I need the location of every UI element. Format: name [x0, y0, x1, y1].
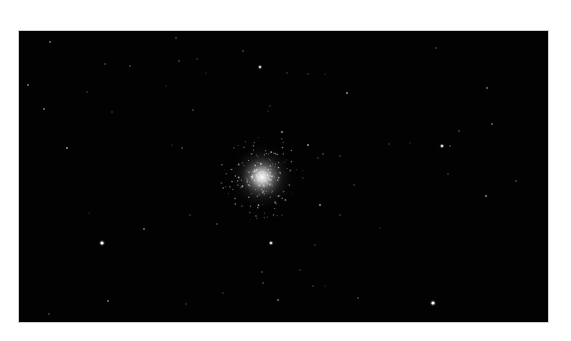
star — [307, 144, 309, 146]
night-sky-image — [19, 31, 548, 322]
star — [286, 72, 287, 73]
star — [192, 109, 194, 111]
star — [515, 180, 517, 182]
star — [431, 301, 434, 304]
star — [88, 212, 89, 213]
star — [409, 142, 410, 143]
star — [353, 184, 354, 185]
cluster-core — [220, 137, 303, 220]
star — [357, 297, 359, 299]
star — [43, 108, 45, 110]
star — [129, 65, 131, 67]
star — [189, 214, 190, 215]
star — [270, 242, 273, 245]
star — [299, 269, 300, 270]
star — [196, 58, 197, 59]
star — [277, 299, 279, 301]
star — [48, 313, 50, 315]
star — [185, 303, 186, 304]
star — [66, 147, 68, 149]
star — [165, 85, 166, 86]
star — [447, 173, 448, 174]
star-cluster-photo: globular star cluster — [19, 31, 548, 322]
star — [242, 50, 244, 52]
star — [324, 73, 325, 74]
star — [339, 155, 340, 156]
star — [449, 145, 451, 147]
star — [261, 271, 263, 273]
star — [222, 292, 223, 293]
star — [216, 223, 218, 225]
star — [205, 72, 206, 73]
star — [485, 195, 487, 197]
star — [175, 37, 177, 39]
star — [319, 204, 321, 206]
star — [104, 63, 106, 65]
star — [143, 228, 145, 230]
star — [171, 144, 172, 145]
star — [322, 153, 324, 155]
star — [269, 105, 270, 106]
star — [107, 300, 109, 302]
star — [339, 214, 340, 215]
star — [388, 143, 389, 144]
star — [111, 111, 112, 112]
page-canvas: globular star cluster — [0, 0, 571, 341]
star — [458, 130, 460, 132]
star — [379, 227, 380, 228]
star — [178, 60, 180, 62]
star — [317, 157, 318, 158]
star — [100, 241, 103, 244]
star — [27, 84, 29, 86]
star — [346, 92, 348, 94]
star — [324, 285, 325, 286]
star — [49, 41, 51, 43]
star — [307, 73, 308, 74]
star — [314, 244, 315, 245]
star — [486, 87, 488, 89]
star — [181, 147, 183, 149]
star — [441, 145, 444, 148]
star — [233, 147, 234, 148]
star — [262, 282, 264, 284]
star — [491, 123, 493, 125]
star — [259, 66, 261, 68]
star — [312, 285, 313, 286]
star — [267, 110, 268, 111]
star — [281, 131, 283, 133]
star — [86, 91, 87, 92]
star — [435, 47, 437, 49]
